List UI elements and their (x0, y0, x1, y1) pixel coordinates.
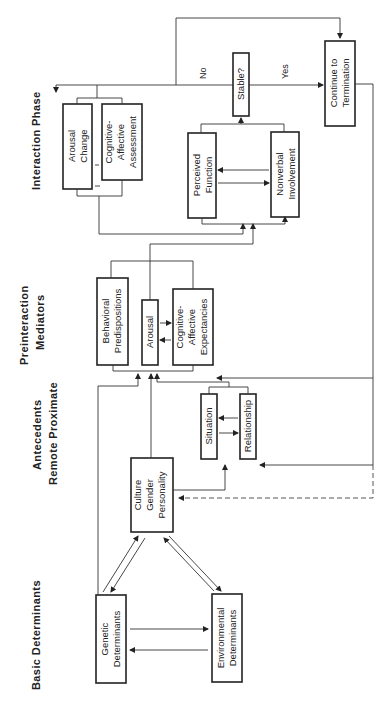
svg-text:Yes: Yes (280, 64, 290, 79)
box-nonverbal-involvement: Nonverbal Involvement (271, 132, 299, 217)
svg-text:Determinants: Determinants (111, 611, 122, 668)
box-arousal: Arousal (142, 300, 158, 365)
svg-text:Affective: Affective (115, 124, 126, 160)
box-genetic-determinants: Genetic Determinants (96, 595, 126, 683)
svg-text:Expectancies: Expectancies (198, 299, 209, 356)
header-antecedents: Antecedents Remote Proximate (31, 382, 59, 485)
box-relationship: Relationship (240, 394, 256, 459)
svg-text:Nonverbal: Nonverbal (274, 152, 285, 195)
box-behavioral-predispositions: Behavioral Predispositions (97, 278, 128, 365)
svg-text:Determinants: Determinants (227, 610, 238, 667)
svg-text:Personality: Personality (156, 471, 167, 518)
svg-text:Predispositions: Predispositions (112, 289, 123, 354)
svg-text:Environmental: Environmental (215, 608, 226, 669)
svg-text:Relationship: Relationship (242, 400, 253, 452)
header-preinteraction-mediators: Preinteraction Mediators (18, 285, 46, 365)
svg-text:Termination: Termination (340, 58, 351, 107)
header-basic-determinants: Basic Determinants (30, 580, 42, 690)
svg-text:Genetic: Genetic (99, 622, 110, 655)
box-continue-to-termination: Continue to Termination (325, 41, 355, 126)
svg-text:Affective: Affective (186, 309, 197, 345)
svg-text:Change: Change (78, 129, 89, 162)
svg-text:Preinteraction: Preinteraction (18, 285, 30, 365)
svg-text:No: No (198, 67, 208, 79)
svg-text:Basic Determinants: Basic Determinants (30, 580, 42, 690)
svg-text:Arousal: Arousal (144, 316, 155, 348)
svg-text:Behavioral: Behavioral (100, 299, 111, 344)
svg-text:Involvement: Involvement (286, 148, 297, 200)
box-culture-gender-personality: Culture Gender Personality (131, 458, 173, 532)
svg-text:Assessment: Assessment (127, 116, 138, 168)
box-stable-decision: Stable? (233, 53, 249, 116)
svg-text:Function: Function (203, 157, 214, 193)
box-cognitive-affective-assessment: Cognitive- Affective Assessment (102, 104, 142, 180)
svg-text:Stable?: Stable? (235, 68, 246, 100)
box-perceived-function: Perceived Function (188, 133, 216, 218)
svg-text:Mediators: Mediators (34, 294, 46, 350)
box-cognitive-affective-expectancies: Cognitive- Affective Expectancies (173, 289, 213, 365)
box-arousal-change: Arousal Change (63, 104, 92, 189)
svg-text:Arousal: Arousal (66, 130, 77, 162)
minus-signs (95, 165, 100, 186)
svg-text:Interaction Phase: Interaction Phase (30, 92, 42, 191)
box-environmental-determinants: Environmental Determinants (212, 594, 242, 682)
diagram-canvas: Basic Determinants Antecedents Remote Pr… (0, 0, 391, 704)
svg-text:Culture: Culture (132, 480, 143, 511)
box-situation: Situation (201, 394, 217, 459)
svg-text:Cognitive-: Cognitive- (174, 306, 185, 349)
svg-text:Remote Proximate: Remote Proximate (47, 382, 59, 485)
header-interaction-phase: Interaction Phase (30, 92, 42, 191)
svg-text:Gender: Gender (144, 479, 155, 511)
edge-label-no: No (198, 67, 208, 79)
svg-text:Continue to: Continue to (328, 59, 339, 108)
svg-text:Perceived: Perceived (191, 154, 202, 196)
svg-text:Situation: Situation (203, 408, 214, 445)
edge-label-yes: Yes (280, 64, 290, 79)
svg-text:Cognitive-: Cognitive- (103, 121, 114, 164)
svg-text:Antecedents: Antecedents (31, 400, 43, 470)
